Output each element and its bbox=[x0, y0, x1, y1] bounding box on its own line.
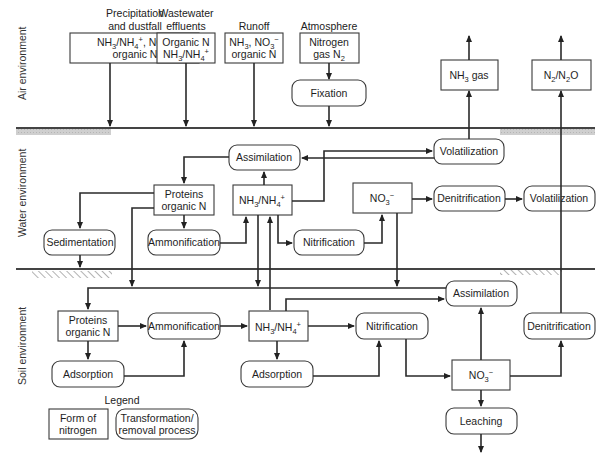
water-form-nh3-nh4: NH3/NH4+ bbox=[233, 185, 292, 215]
svg-text:Precipitation: Precipitation bbox=[106, 7, 164, 19]
soil-process-adsorption-2: Adsorption bbox=[241, 361, 313, 387]
nitrogen-cycle-diagram: Air environment Water environment Soil e… bbox=[0, 0, 611, 466]
source-wastewater-box: Organic N NH3/NH4+ bbox=[157, 33, 215, 63]
svg-text:removal process: removal process bbox=[118, 424, 195, 436]
svg-text:Nitrification: Nitrification bbox=[366, 320, 418, 332]
svg-text:Nitrogen: Nitrogen bbox=[309, 36, 349, 48]
svg-text:Sedimentation: Sedimentation bbox=[46, 236, 113, 248]
svg-text:Leaching: Leaching bbox=[460, 415, 503, 427]
form-n2-n2o: N2/N2O bbox=[532, 60, 591, 90]
water-process-ammonification: Ammonification bbox=[148, 230, 220, 255]
svg-text:Form of: Form of bbox=[60, 412, 96, 424]
svg-text:Organic N: Organic N bbox=[162, 36, 209, 48]
form-nh3-gas: NH3 gas bbox=[441, 60, 498, 90]
svg-text:Proteins: Proteins bbox=[165, 188, 204, 200]
soil-process-ammonification: Ammonification bbox=[148, 313, 220, 339]
soil-form-nh3-nh4: NH3/NH4+ bbox=[249, 311, 308, 341]
svg-text:Volatilization: Volatilization bbox=[530, 192, 589, 204]
water-process-denitrification: Denitrification bbox=[434, 186, 505, 211]
process-fixation: Fixation bbox=[292, 80, 366, 106]
svg-text:Ammonification: Ammonification bbox=[148, 320, 220, 332]
soil-process-adsorption-1: Adsorption bbox=[52, 361, 124, 387]
water-form-no3: NO3− bbox=[353, 183, 412, 213]
svg-text:Assimilation: Assimilation bbox=[453, 287, 509, 299]
svg-text:Denitrification: Denitrification bbox=[437, 192, 501, 204]
source-runoff: Runoff NH3, NO3− organic N bbox=[225, 20, 283, 63]
water-process-volatilization-2: Volatilization bbox=[524, 186, 595, 211]
svg-text:Legend: Legend bbox=[104, 394, 139, 406]
water-form-proteins: Proteins organic N bbox=[154, 185, 214, 215]
svg-text:Atmosphere: Atmosphere bbox=[301, 20, 358, 32]
water-process-volatilization-1: Volatilization bbox=[434, 139, 504, 164]
soil-form-no3: NO3− bbox=[452, 360, 510, 390]
svg-text:Adsorption: Adsorption bbox=[252, 368, 302, 380]
water-process-assimilation: Assimilation bbox=[229, 145, 300, 170]
svg-text:Volatilization: Volatilization bbox=[440, 145, 499, 157]
svg-text:organic N: organic N bbox=[232, 48, 277, 60]
svg-text:Denitrification: Denitrification bbox=[527, 320, 591, 332]
legend-transformation-process: Transformation/ removal process bbox=[116, 409, 198, 439]
water-process-sedimentation: Sedimentation bbox=[44, 230, 115, 255]
soil-process-leaching: Leaching bbox=[446, 408, 517, 434]
legend: Legend Form of nitrogen Transformation/ … bbox=[49, 394, 198, 439]
svg-text:and dustfall: and dustfall bbox=[108, 20, 162, 32]
svg-text:Wastewater: Wastewater bbox=[158, 7, 214, 19]
soil-process-denitrification: Denitrification bbox=[524, 313, 595, 339]
zone-label-soil: Soil environment bbox=[16, 307, 28, 385]
svg-text:Runoff: Runoff bbox=[239, 20, 270, 32]
svg-text:Adsorption: Adsorption bbox=[63, 368, 113, 380]
svg-text:Assimilation: Assimilation bbox=[236, 151, 292, 163]
air-water-boundary bbox=[16, 128, 595, 135]
source-atmosphere: Atmosphere Nitrogen gas N2 bbox=[300, 20, 359, 63]
svg-text:organic N: organic N bbox=[66, 326, 111, 338]
svg-text:Ammonification: Ammonification bbox=[148, 236, 220, 248]
source-wastewater: Wastewater effluents bbox=[158, 7, 214, 32]
svg-text:Nitrification: Nitrification bbox=[303, 236, 355, 248]
svg-text:Transformation/: Transformation/ bbox=[120, 412, 193, 424]
soil-process-assimilation: Assimilation bbox=[446, 281, 517, 306]
svg-text:organic N: organic N bbox=[162, 200, 207, 212]
svg-text:Proteins: Proteins bbox=[69, 314, 108, 326]
soil-process-nitrification: Nitrification bbox=[356, 313, 428, 339]
svg-text:organic N: organic N bbox=[113, 48, 158, 60]
zone-label-air: Air environment bbox=[16, 26, 28, 100]
svg-text:Fixation: Fixation bbox=[311, 87, 348, 99]
water-process-nitrification: Nitrification bbox=[294, 230, 364, 255]
soil-form-proteins: Proteins organic N bbox=[58, 311, 118, 341]
legend-form-of-nitrogen: Form of nitrogen bbox=[49, 409, 108, 439]
water-soil-boundary bbox=[16, 268, 595, 278]
svg-text:nitrogen: nitrogen bbox=[59, 424, 97, 436]
svg-text:effluents: effluents bbox=[166, 20, 206, 32]
zone-label-water: Water environment bbox=[16, 149, 28, 237]
